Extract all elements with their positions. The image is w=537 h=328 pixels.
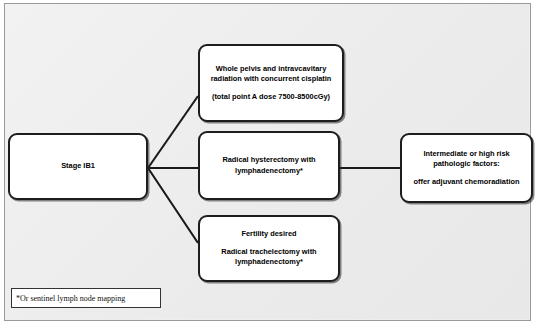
node-radical-hysterectomy[interactable]: Radical hysterectomy with lymphadenectom… [198,131,340,200]
footnote-box: *Or sentinel lymph node mapping [11,288,161,308]
node-stage-ib1-label: Stage IB1 [15,161,141,172]
node-radiation-cisplatin-line-1: Whole pelvis and intravcavitary radiatio… [205,64,337,85]
node-pathologic-factors-line-1: Intermediate or high risk pathologic fac… [407,149,526,170]
node-stage-ib1[interactable]: Stage IB1 [8,133,148,200]
node-radical-trachelectomy-line-2: Radical trachelectomy with lymphadenecto… [205,247,333,268]
footnote-text: *Or sentinel lymph node mapping [16,294,125,303]
node-pathologic-factors-line-2: offer adjuvant chemoradiation [407,177,526,188]
node-radical-trachelectomy[interactable]: Fertility desired Radical trachelectomy … [198,215,340,282]
node-radiation-cisplatin-line-2: (total point A dose 7500-8500cGy) [205,92,337,103]
node-radical-trachelectomy-line-1: Fertility desired [205,229,333,240]
node-radiation-cisplatin[interactable]: Whole pelvis and intravcavitary radiatio… [198,44,344,122]
node-pathologic-factors[interactable]: Intermediate or high risk pathologic fac… [400,133,533,203]
node-radical-hysterectomy-line-1: Radical hysterectomy with lymphadenectom… [205,155,333,176]
flowchart-canvas: Stage IB1 Whole pelvis and intravcavitar… [0,0,537,328]
